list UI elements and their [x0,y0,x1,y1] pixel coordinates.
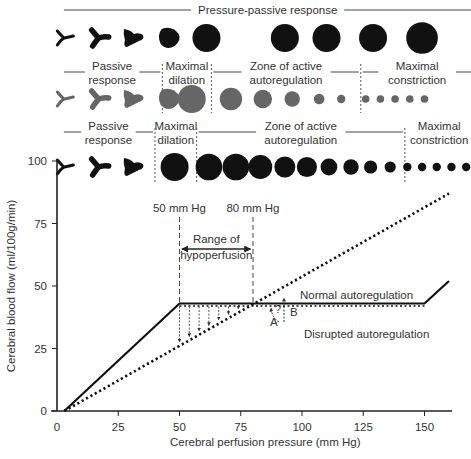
vessel-circle [274,157,295,178]
vessel-circle [359,24,387,52]
vessel-circle [447,163,455,171]
vessel-circle [462,163,470,171]
header-label: Zone of active [265,120,337,132]
vessel-y-thick [92,30,109,46]
y-tick-label: 25 [34,343,47,355]
y-ticks: 0255075100 [28,155,57,417]
autoregulation-figure: Pressure-passive responsePassiveresponse… [0,0,471,459]
header-label: constriction [410,134,468,146]
vessel-y-thick [92,159,109,175]
disrupted-autoregulation-label: Disrupted autoregulation [304,328,429,340]
header-label: response [88,74,135,86]
header-label: autoregulation [264,134,337,146]
y-tick-label: 0 [41,405,47,417]
vessel-circle [433,163,441,171]
vessel-circle [421,95,429,103]
y-axis-label: Cerebral blood flow (ml/100g/min) [5,200,17,373]
header-label: autoregulation [250,74,323,86]
vessel-circle [223,154,250,181]
header-label: Maximal [396,60,439,72]
row-header: Maximaldilation [165,60,208,86]
header-label: Maximal [165,60,208,72]
x-tick-label: 125 [354,421,373,433]
vessel-y-thick [92,91,109,107]
point-b-label: B [290,306,298,318]
pressure-marker-label: 50 mm Hg [153,202,206,214]
vessel-circle [192,24,220,52]
x-tick-label: 50 [173,421,186,433]
row-header: Passiveresponse [64,120,153,146]
vessel-row: Pressure-passive response [57,4,471,54]
header-label: Maximal [418,120,461,132]
vessel-row: PassiveresponseMaximaldilationZone of ac… [57,120,470,184]
header-label: Passive [88,120,128,132]
vessel-row: PassiveresponseMaximaldilationZone of ac… [57,60,471,113]
header-label: Pressure-passive response [198,4,337,16]
vessel-circle [196,154,223,181]
series-lines [64,194,449,412]
vessel-circle [271,24,299,52]
vessel-circle [343,159,358,174]
question-mark: ? [275,303,281,315]
row-header: Maximalconstriction [410,120,468,146]
x-tick-label: 75 [234,421,247,433]
row-header: Passiveresponse [64,60,160,86]
header-label: response [85,134,132,146]
x-ticks: 0255075100125150 [54,411,434,433]
vessel-rows: Pressure-passive responsePassiveresponse… [57,4,471,184]
point-a-label: A [270,316,278,328]
vessel-y-thin [57,160,73,174]
header-label: dilation [169,74,205,86]
range-label: hypoperfusion [180,249,252,261]
hypoperfusion-range: Range ofhypoperfusion [180,233,252,261]
row-header: Maximaldilation [154,120,197,146]
x-tick-label: 100 [292,421,311,433]
drop-arrows [180,307,239,343]
vessel-circle [178,85,206,113]
y-tick-label: 50 [34,280,47,292]
pressure-marker-label: 80 mm Hg [226,202,279,214]
x-tick-label: 0 [54,421,60,433]
annotations: Normal autoregulationDisrupted autoregul… [270,289,429,340]
vessel-circle [406,95,414,103]
header-label: constriction [388,74,446,86]
y-tick-label: 75 [34,218,47,230]
chart: 0255075100 0255075100125150 Cerebral per… [5,155,452,448]
normal-autoregulation-label: Normal autoregulation [300,289,413,301]
header-label: Passive [92,60,132,72]
header-label: Zone of active [250,60,322,72]
vessel-circle [161,153,189,181]
vessel-circle [337,95,345,103]
vessel-circle [254,90,272,108]
x-tick-label: 150 [415,421,434,433]
vessel-circle [313,24,341,52]
vessel-circle [321,159,338,176]
vessel-circle [391,95,399,103]
x-axis-label: Cerebral perfusion pressure (mm Hg) [170,436,361,448]
vessel-circle [314,94,325,105]
vessel-circle [248,155,272,179]
vessel-circle [285,91,300,106]
vessel-circle [297,157,317,177]
vessel-circle [362,95,370,103]
vessel-circle [403,163,411,171]
vessel-trefoil [124,158,144,176]
vessel-trefoil [124,29,144,47]
vessel-trefoil [124,90,144,108]
range-label: Range of [193,233,240,245]
vessel-circle [377,95,385,103]
x-tick-label: 25 [112,421,125,433]
vessel-y-thin [57,92,73,106]
vessel-circle [385,161,396,172]
header-label: Maximal [154,120,197,132]
vessel-blob [159,89,180,109]
vessel-circle [220,88,242,110]
disrupted-autoregulation-line [64,194,449,412]
row-header: Maximalconstriction [363,60,471,86]
row-header: Zone of activeautoregulation [213,60,358,86]
vessel-y-thin [57,31,73,45]
row-header: Pressure-passive response [64,4,471,16]
y-tick-label: 100 [28,155,47,167]
vessel-blob [159,28,180,48]
vessel-circle [406,22,438,54]
